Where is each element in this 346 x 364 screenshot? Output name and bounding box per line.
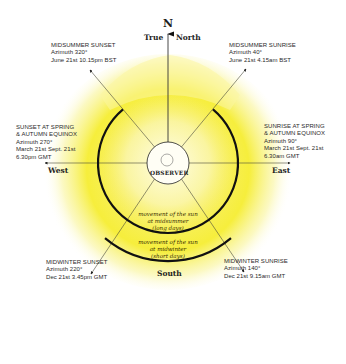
annotation-time: 6.30am GMT xyxy=(264,153,325,160)
annotation-title: & AUTUMN EQUINOX xyxy=(264,130,325,137)
equinox-sunrise-annotation: SUNRISE AT SPRING & AUTUMN EQUINOX Azimu… xyxy=(264,123,325,160)
sun-path-diagram: N True North West East South OBSERVER MI… xyxy=(0,0,346,364)
caption-line: movement of the sun xyxy=(138,239,198,246)
caption-line: at midwinter xyxy=(138,246,198,253)
annotation-azimuth: Azimuth 90° xyxy=(264,138,325,145)
midsummer-sunset-annotation: MIDSUMMER SUNSET Azimuth 320° June 21st … xyxy=(51,42,116,64)
annotation-title: SUNSET AT SPRING xyxy=(16,124,77,131)
observer-label: OBSERVER xyxy=(150,170,189,176)
annotation-dates: March 21st Sept. 21st xyxy=(264,145,325,152)
annotation-title: SUNRISE AT SPRING xyxy=(264,123,325,130)
midwinter-sunset-annotation: MIDWINTER SUNSET Azimuth 220° Dec 21st 3… xyxy=(46,259,107,281)
annotation-time: Dec 21st 3.45pm GMT xyxy=(46,274,107,281)
midwinter-sunrise-annotation: MIDWINTER SUNRISE Azimuth 140° Dec 21st … xyxy=(224,258,288,280)
true-label: True xyxy=(144,33,163,42)
caption-line: movement of the sun xyxy=(138,211,198,218)
midsummer-sunrise-annotation: MIDSUMMER SUNRISE Azimuth 40° June 21st … xyxy=(229,42,296,64)
annotation-title: MIDWINTER SUNSET xyxy=(46,259,107,266)
annotation-azimuth: Azimuth 270° xyxy=(16,139,77,146)
north-label: North xyxy=(176,33,201,42)
annotation-time: Dec 21st 9.15am GMT xyxy=(224,273,288,280)
east-label: East xyxy=(272,166,290,175)
caption-line: (short days) xyxy=(138,253,198,260)
annotation-dates: March 21st Sept. 21st xyxy=(16,146,77,153)
annotation-azimuth: Azimuth 220° xyxy=(46,266,107,273)
equinox-sunset-annotation: SUNSET AT SPRING & AUTUMN EQUINOX Azimut… xyxy=(16,124,77,161)
caption-line: at midsummer xyxy=(138,218,198,225)
midwinter-caption: movement of the sun at midwinter (short … xyxy=(138,239,198,260)
north-letter: N xyxy=(163,17,173,30)
annotation-title: MIDSUMMER SUNRISE xyxy=(229,42,296,49)
annotation-title: & AUTUMN EQUINOX xyxy=(16,131,77,138)
annotation-time: June 21st 10.15pm BST xyxy=(51,57,116,64)
annotation-time: 6.30pm GMT xyxy=(16,154,77,161)
caption-line: (long days) xyxy=(138,225,198,232)
annotation-azimuth: Azimuth 140° xyxy=(224,265,288,272)
annotation-title: MIDWINTER SUNRISE xyxy=(224,258,288,265)
annotation-title: MIDSUMMER SUNSET xyxy=(51,42,116,49)
observer-circle xyxy=(147,142,189,184)
west-label: West xyxy=(48,166,68,175)
annotation-time: June 21st 4.15am BST xyxy=(229,57,296,64)
annotation-azimuth: Azimuth 320° xyxy=(51,49,116,56)
midsummer-caption: movement of the sun at midsummer (long d… xyxy=(138,211,198,232)
south-label: South xyxy=(157,269,182,278)
annotation-azimuth: Azimuth 40° xyxy=(229,49,296,56)
